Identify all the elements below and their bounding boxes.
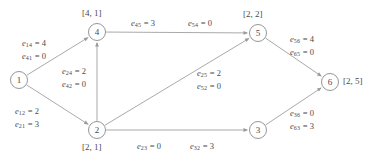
edge-label-54: e54 = 0 [188, 18, 212, 31]
edge-label-12-21: e12 = 2e21 = 3 [15, 106, 39, 133]
equals-sign: = [200, 141, 210, 151]
node-label-3: 3 [249, 125, 267, 135]
arrowhead-2-3 [244, 128, 249, 132]
equals-sign: = [300, 34, 310, 44]
edge-4-5 [106, 32, 247, 33]
bracket-label-node-5: [2, 2] [243, 9, 263, 19]
equals-sign: = [300, 108, 310, 118]
edge-label-25-52-line: e52 = 0 [197, 81, 221, 94]
bracket-label-node-6: [2, 5] [343, 76, 363, 86]
node-label-2: 2 [88, 125, 106, 135]
edge-label-23-line: e23 = 0 [137, 141, 161, 154]
edge-label-45: e45 = 3 [131, 18, 155, 31]
node-label-4: 4 [88, 27, 106, 37]
edge-label-36-63-line: e63 = 3 [290, 121, 314, 134]
bracket-label-node-4: [4, 1] [82, 8, 102, 18]
edge-value: 3 [310, 121, 314, 131]
edge-label-32: e32 = 3 [190, 141, 214, 154]
edge-label-36-63-line: e36 = 0 [290, 108, 314, 121]
edge-label-14-41-line: e14 = 4 [22, 38, 46, 51]
equals-sign: = [72, 79, 82, 89]
edge-value: 2 [217, 68, 221, 78]
edge-value: 0 [217, 81, 221, 91]
edge-label-36-63: e36 = 0e63 = 3 [290, 108, 314, 135]
node-label-6: 6 [321, 77, 339, 87]
edge-value: 3 [151, 18, 155, 28]
edge-value: 4 [310, 34, 314, 44]
arrowhead-2-4 [95, 42, 99, 47]
edge-label-24-42: e24 = 2e42 = 0 [62, 66, 86, 93]
arrowhead-2-5 [245, 38, 250, 42]
node-label-5: 5 [249, 28, 267, 38]
edge-label-24-42-line: e42 = 0 [62, 79, 86, 92]
edge-value: 2 [35, 106, 39, 116]
node-label-1: 1 [10, 75, 28, 85]
equals-sign: = [207, 81, 217, 91]
arrowhead-3-6 [317, 87, 322, 91]
edge-value: 0 [310, 47, 314, 57]
edge-label-14-41-line: e41 = 0 [22, 51, 46, 64]
edge-label-56-65: e56 = 4e65 = 0 [290, 34, 314, 61]
edge-label-25-52-line: e25 = 2 [197, 68, 221, 81]
equals-sign: = [300, 121, 310, 131]
edge-value: 2 [82, 66, 86, 76]
edge-label-56-65-line: e65 = 0 [290, 47, 314, 60]
equals-sign: = [25, 119, 35, 129]
equals-sign: = [147, 141, 157, 151]
equals-sign: = [32, 51, 42, 61]
edge-label-23: e23 = 0 [137, 141, 161, 154]
edge-value: 3 [210, 141, 214, 151]
equals-sign: = [207, 68, 217, 78]
graph-figure: 123456 [2, 1][4, 1][2, 2][2, 5] e14 = 4e… [0, 0, 377, 164]
arrowhead-1-4 [84, 37, 89, 41]
edge-label-32-line: e32 = 3 [190, 141, 214, 154]
edge-value: 0 [157, 141, 161, 151]
edge-label-54-line: e54 = 0 [188, 18, 212, 31]
edge-value: 0 [42, 51, 46, 61]
equals-sign: = [72, 66, 82, 76]
equals-sign: = [32, 38, 42, 48]
edge-value: 0 [208, 18, 212, 28]
edge-value: 0 [82, 79, 86, 89]
equals-sign: = [198, 18, 208, 28]
edge-value: 3 [35, 119, 39, 129]
edge-label-14-41: e14 = 4e41 = 0 [22, 38, 46, 65]
equals-sign: = [25, 106, 35, 116]
bracket-label-node-2: [2, 1] [82, 142, 102, 152]
arrowhead-4-5 [243, 31, 248, 35]
edge-value: 4 [42, 38, 46, 48]
equals-sign: = [141, 18, 151, 28]
edge-label-12-21-line: e21 = 3 [15, 119, 39, 132]
edge-label-12-21-line: e12 = 2 [15, 106, 39, 119]
edge-label-56-65-line: e56 = 4 [290, 34, 314, 47]
edge-label-24-42-line: e24 = 2 [62, 66, 86, 79]
edge-2-5 [105, 39, 249, 126]
edge-label-45-line: e45 = 3 [131, 18, 155, 31]
edge-label-25-52: e25 = 2e52 = 0 [197, 68, 221, 95]
equals-sign: = [300, 47, 310, 57]
edge-value: 0 [310, 108, 314, 118]
